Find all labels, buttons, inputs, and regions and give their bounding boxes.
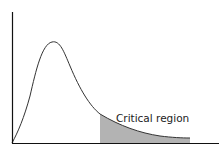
critical-region-label: Critical region xyxy=(116,112,189,124)
density-chart: Critical region xyxy=(0,0,224,155)
